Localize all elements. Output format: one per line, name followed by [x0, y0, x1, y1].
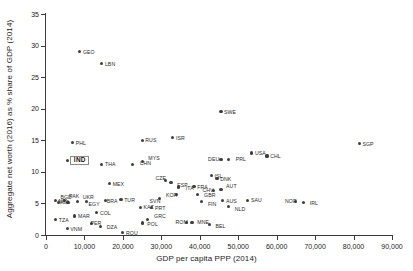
data-point[interactable]	[76, 200, 79, 203]
data-point-label: PER	[91, 220, 102, 226]
data-point[interactable]	[141, 221, 144, 224]
data-point[interactable]	[265, 154, 268, 157]
data-point-label: COL	[100, 210, 111, 216]
data-point-label: BGD	[61, 194, 72, 200]
x-tick-mark	[200, 236, 201, 240]
data-point-label: ISR	[176, 135, 185, 141]
data-point[interactable]	[57, 201, 60, 204]
data-point[interactable]	[200, 200, 203, 203]
data-point-label: MAR	[78, 213, 90, 219]
data-point[interactable]	[100, 62, 103, 65]
data-point[interactable]	[358, 142, 361, 145]
x-tick-label: 20,000	[101, 243, 145, 251]
data-point-label: TUR	[124, 197, 135, 203]
x-tick-label: 10,000	[62, 243, 106, 251]
data-point-label: CZE	[155, 175, 166, 181]
data-point-label: AUS	[226, 198, 237, 204]
data-point[interactable]	[66, 159, 69, 162]
x-tick-label: 90,000	[370, 243, 413, 251]
data-point[interactable]	[221, 199, 224, 202]
data-point-label: SAU	[251, 197, 262, 203]
data-point[interactable]	[78, 50, 81, 53]
data-point-label: SVN	[150, 198, 161, 204]
data-point[interactable]	[177, 185, 180, 188]
data-point-label: KOR	[166, 192, 177, 198]
x-axis-title: GDP per capita PPP (2014)	[0, 254, 413, 263]
data-point-label: LBN	[105, 61, 115, 67]
plot-area: GEOLBNSWEISRRUSPHLSGPUSACHLDEUPRLINDTHAC…	[46, 14, 392, 235]
data-point[interactable]	[196, 193, 199, 196]
data-point[interactable]	[108, 182, 111, 185]
data-point-label: DNK	[220, 176, 231, 182]
data-point[interactable]	[54, 218, 57, 221]
data-point[interactable]	[66, 227, 69, 230]
data-point-label: NOR	[285, 198, 297, 204]
data-point[interactable]	[302, 201, 305, 204]
data-point[interactable]	[119, 198, 122, 201]
data-point[interactable]	[171, 136, 174, 139]
x-tick-mark	[84, 236, 85, 240]
data-point[interactable]	[219, 188, 222, 191]
data-point-label: MEX	[113, 181, 124, 187]
data-point-label: CHL	[270, 153, 281, 159]
data-point-label: RUS	[145, 137, 156, 143]
data-point[interactable]	[250, 151, 253, 154]
data-point-label: DZA	[107, 224, 118, 230]
data-point[interactable]	[169, 181, 172, 184]
data-point-label: FIN	[208, 201, 217, 207]
y-tick-label: 35	[9, 11, 39, 18]
data-point[interactable]	[215, 177, 218, 180]
data-point[interactable]	[71, 141, 74, 144]
data-point-label: PRL	[236, 156, 246, 162]
data-point-label: NLD	[235, 206, 246, 212]
y-tick-label: 0	[9, 232, 39, 239]
y-tick-label: 20	[9, 105, 39, 112]
data-point-label: EGY	[89, 201, 100, 207]
data-point[interactable]	[121, 231, 124, 234]
data-point[interactable]	[219, 158, 222, 161]
data-point[interactable]	[192, 185, 195, 188]
data-point-label-highlighted: IND	[70, 156, 89, 165]
data-point-label: USA	[255, 150, 266, 156]
x-tick-mark	[354, 236, 355, 240]
data-point-label: THA	[105, 161, 116, 167]
data-point[interactable]	[73, 214, 76, 217]
y-tick-label: 10	[9, 168, 39, 175]
x-tick-mark	[238, 236, 239, 240]
data-point[interactable]	[210, 174, 213, 177]
data-point[interactable]	[246, 199, 249, 202]
data-point[interactable]	[219, 110, 222, 113]
data-point[interactable]	[208, 223, 211, 226]
x-tick-label: 30,000	[139, 243, 183, 251]
data-point-label: MYS	[148, 155, 159, 161]
data-point[interactable]	[190, 221, 193, 224]
data-point-label: SWE	[224, 109, 236, 115]
data-point[interactable]	[100, 163, 103, 166]
x-tick-mark	[46, 236, 47, 240]
data-point-label: IRL	[310, 200, 318, 206]
data-point-label: GRC	[154, 213, 166, 219]
x-tick-label: 0	[24, 243, 68, 251]
data-point-label: GEO	[83, 49, 95, 55]
data-point-label: BEL	[216, 223, 226, 229]
data-point-label: VNM	[70, 226, 82, 232]
x-axis-line	[45, 235, 393, 236]
data-point-label: PRT	[155, 205, 165, 211]
data-point[interactable]	[95, 211, 98, 214]
data-point[interactable]	[227, 158, 230, 161]
scatter-chart-figure: Aggregate net worth (2016) as % share of…	[0, 0, 413, 271]
data-point[interactable]	[85, 200, 88, 203]
x-tick-mark	[161, 236, 162, 240]
data-point-label: BRA	[107, 198, 118, 204]
data-point-label: AUT	[226, 183, 237, 189]
x-tick-mark	[277, 236, 278, 240]
data-point-label: ROM	[176, 219, 188, 225]
data-point[interactable]	[227, 205, 230, 208]
x-tick-mark	[123, 236, 124, 240]
data-point[interactable]	[131, 163, 134, 166]
data-point[interactable]	[139, 206, 142, 209]
x-tick-mark	[392, 236, 393, 240]
x-tick-label: 70,000	[293, 243, 337, 251]
data-point[interactable]	[141, 139, 144, 142]
data-point-label: GBR	[204, 192, 215, 198]
